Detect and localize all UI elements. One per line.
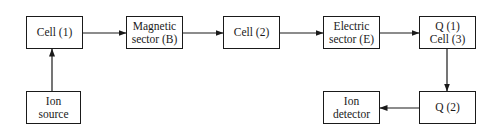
node-cell-1: Cell (1) [26, 16, 83, 49]
node-label-line2: sector (B) [132, 33, 178, 46]
node-label-line1: Q (1) [435, 20, 460, 33]
node-magnetic-sector: Magnetic sector (B) [126, 16, 183, 49]
node-label-line1: Magnetic [133, 20, 176, 33]
node-q1-cell3: Q (1) Cell (3) [419, 16, 476, 49]
node-label-line1: Electric [334, 20, 370, 33]
node-label-line1: Ion [344, 95, 359, 108]
node-label-line2: Cell (3) [430, 33, 465, 46]
node-label: Q (2) [435, 101, 460, 114]
node-electric-sector: Electric sector (E) [323, 16, 380, 49]
node-ion-source: Ion source [26, 91, 81, 124]
node-label-line1: Ion [46, 95, 61, 108]
node-q2: Q (2) [419, 91, 476, 124]
node-label-line2: source [38, 108, 68, 121]
node-cell-2: Cell (2) [223, 16, 280, 49]
node-label: Cell (2) [234, 26, 269, 39]
node-ion-detector: Ion detector [323, 91, 380, 124]
node-label-line2: sector (E) [329, 33, 374, 46]
node-label: Cell (1) [37, 26, 72, 39]
node-label-line2: detector [333, 108, 370, 121]
